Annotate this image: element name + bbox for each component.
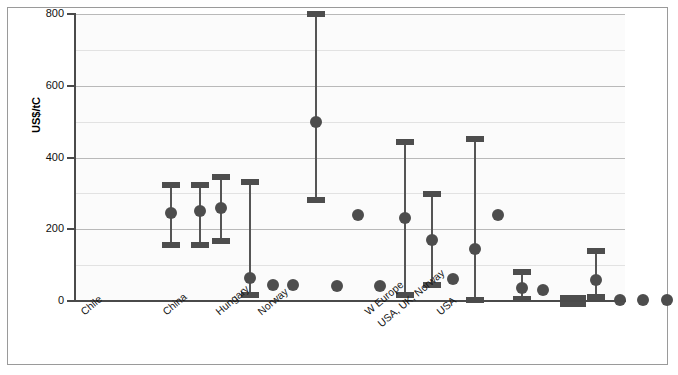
x-axis-category-labels: ChileChinaHungaryNorwayW EuropeUSA, UK, …: [0, 0, 678, 375]
y-axis-tick-mark: [67, 228, 75, 230]
y-axis-tick-mark: [67, 300, 75, 302]
x-axis-category-label: Chile: [78, 293, 104, 318]
x-axis-category-label: Hungary: [213, 282, 251, 317]
x-axis-category-label: USA: [434, 294, 458, 317]
x-axis-category-label: Norway: [255, 285, 290, 317]
figure-canvas: US$/tC 0200400600800 ChileChinaHungaryNo…: [0, 0, 678, 375]
y-axis-tick-mark: [67, 13, 75, 15]
x-axis-category-label: China: [160, 290, 189, 317]
y-axis-tick-mark: [67, 85, 75, 87]
y-axis-tick-mark: [67, 157, 75, 159]
